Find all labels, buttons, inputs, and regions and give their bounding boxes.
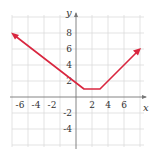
y-tick: -4 — [63, 124, 72, 134]
x-tick: -4 — [32, 100, 41, 110]
x-tick: -2 — [48, 100, 57, 110]
x-axis-arrow-icon — [142, 95, 147, 99]
x-axis-label: x — [143, 102, 149, 113]
grid — [12, 15, 144, 147]
y-tick: -2 — [63, 108, 72, 118]
x-tick: 6 — [121, 100, 127, 110]
y-axis-arrow-icon — [74, 12, 78, 17]
graph: y x -6 -4 -2 2 4 6 8 6 4 2 -2 -4 — [0, 0, 152, 157]
y-tick: 8 — [66, 28, 72, 38]
y-axis-label: y — [65, 7, 72, 18]
x-tick: 2 — [89, 100, 95, 110]
y-tick: 6 — [66, 44, 72, 54]
y-tick: 4 — [66, 60, 72, 70]
x-tick: 4 — [105, 100, 111, 110]
x-tick: -6 — [16, 100, 25, 110]
axes — [10, 12, 147, 149]
